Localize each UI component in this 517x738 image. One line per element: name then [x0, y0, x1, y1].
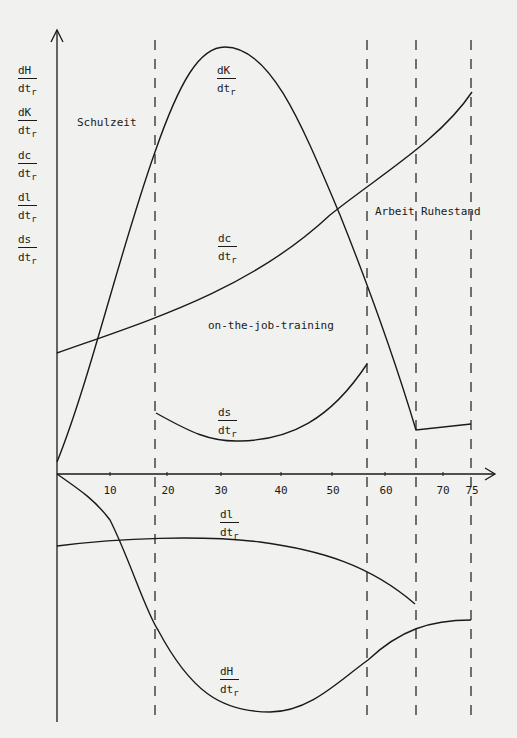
- phase-label-retirement: Ruhestand: [421, 205, 481, 218]
- curve-ds: [156, 364, 367, 441]
- y-label-dl: dl dtr: [18, 191, 37, 226]
- x-tick-20: 20: [161, 484, 174, 497]
- figure: dH dtr dK dtr dc dtr dl dtr ds dtr Schul…: [0, 0, 517, 738]
- y-label-dH: dH dtr: [18, 64, 37, 99]
- x-tick-60: 60: [379, 484, 392, 497]
- x-tick-70: 70: [436, 484, 449, 497]
- x-tick-75: 75: [465, 484, 478, 497]
- curve-label-dH: dH dtr: [220, 665, 239, 700]
- x-tick-40: 40: [274, 484, 287, 497]
- curve-dH: [57, 474, 471, 712]
- curve-label-ds: ds dtr: [218, 406, 237, 441]
- x-tick-50: 50: [326, 484, 339, 497]
- curve-dK: [57, 47, 471, 462]
- curve-label-dK: dK dtr: [217, 64, 236, 99]
- y-label-dc: dc dtr: [18, 149, 37, 184]
- curve-label-dc: dc dtr: [218, 232, 237, 267]
- curve-dc: [57, 92, 472, 353]
- phase-label-otj: on-the-job-training: [208, 319, 334, 332]
- curve-label-dl: dl dtr: [220, 508, 239, 543]
- chart-plot: [0, 0, 517, 738]
- phase-label-work: Arbeit: [375, 205, 415, 218]
- y-label-dK: dK dtr: [18, 106, 37, 141]
- y-label-ds: ds dtr: [18, 233, 37, 268]
- x-tick-30: 30: [214, 484, 227, 497]
- phase-label-school: Schulzeit: [77, 116, 137, 129]
- x-tick-10: 10: [103, 484, 116, 497]
- curve-dl: [57, 538, 415, 604]
